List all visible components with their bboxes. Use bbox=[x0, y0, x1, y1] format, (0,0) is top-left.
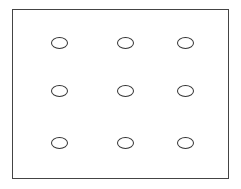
ellipse-r3-c2 bbox=[117, 137, 134, 149]
ellipse-r2-c1 bbox=[51, 85, 68, 97]
ellipse-r2-c3 bbox=[177, 85, 194, 97]
ellipse-r2-c2 bbox=[117, 85, 134, 97]
ellipse-r1-c3 bbox=[177, 37, 194, 49]
ellipse-r1-c1 bbox=[51, 37, 68, 49]
ellipse-r1-c2 bbox=[117, 37, 134, 49]
ellipse-r3-c1 bbox=[51, 137, 68, 149]
ellipse-r3-c3 bbox=[177, 137, 194, 149]
